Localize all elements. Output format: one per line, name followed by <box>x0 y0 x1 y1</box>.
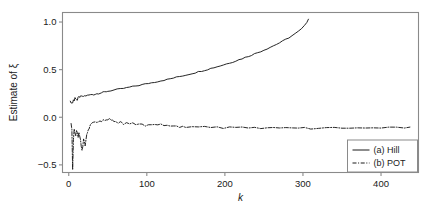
y-tick-label: 1.0 <box>43 16 56 27</box>
chart-figure: 0100200300400k−0.50.00.51.0Estimate of ξ… <box>0 0 432 213</box>
y-tick-label: −0.5 <box>38 159 57 170</box>
y-tick-label: 0.0 <box>43 112 56 123</box>
x-tick-label: 400 <box>373 178 389 189</box>
chart-svg: 0100200300400k−0.50.00.51.0Estimate of ξ… <box>0 0 432 213</box>
legend-label-pot: (b) POT <box>374 158 407 168</box>
legend-label-hill: (a) Hill <box>374 145 400 155</box>
x-tick-label: 100 <box>139 178 155 189</box>
x-tick-label: 200 <box>217 178 233 189</box>
x-tick-label: 300 <box>295 178 311 189</box>
y-axis-title: Estimate of ξ <box>8 63 20 121</box>
legend: (a) Hill(b) POT <box>348 140 418 172</box>
x-tick-label: 0 <box>66 178 71 189</box>
y-tick-label: 0.5 <box>43 64 56 75</box>
